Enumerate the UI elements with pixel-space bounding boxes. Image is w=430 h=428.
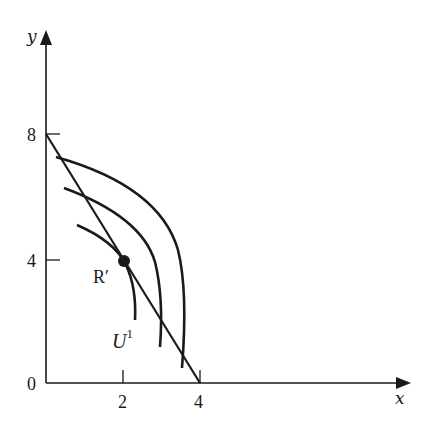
- x-tick-label-4: 4: [194, 392, 203, 412]
- y-axis-arrow-icon: [40, 30, 52, 45]
- x-axis-label: x: [395, 388, 405, 408]
- x-tick-label-2: 2: [118, 392, 127, 412]
- indifference-curve-diagram: y 8 4 0 x 2 4: [0, 0, 430, 428]
- point-r-prime-label: R′: [93, 267, 109, 287]
- origin-label: 0: [27, 374, 36, 394]
- y-tick-label-4: 4: [27, 251, 36, 271]
- indifference-curve-middle: [64, 188, 161, 347]
- y-axis: y 8 4 0: [26, 26, 60, 394]
- point-r-prime: [118, 255, 130, 267]
- curve-label-u1: U1: [112, 326, 133, 352]
- x-axis: x 2 4: [46, 370, 411, 412]
- y-axis-label: y: [26, 26, 37, 46]
- y-tick-label-8: 8: [27, 125, 36, 145]
- curve-label-u1-superscript: 1: [126, 326, 133, 341]
